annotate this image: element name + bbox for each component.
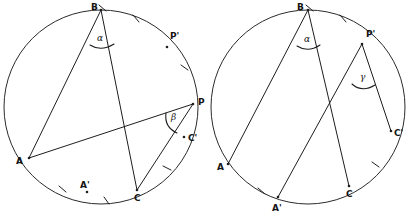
left-circle-diagram: B P' P C' C A' A α β bbox=[4, 2, 205, 204]
left-point-Cprime-dot bbox=[183, 136, 186, 139]
geometry-figure-svg: B P' P C' C A' A α β bbox=[0, 0, 413, 219]
right-label-A: A bbox=[217, 162, 224, 172]
right-point-C-dot bbox=[348, 185, 351, 188]
diagram-canvas: B P' P C' C A' A α β bbox=[0, 0, 413, 219]
left-label-Pprime: P' bbox=[170, 31, 179, 41]
right-point-Pprime-dot bbox=[361, 43, 364, 46]
right-label-C: C bbox=[346, 189, 353, 199]
left-label-angle-alpha: α bbox=[97, 33, 103, 43]
right-point-Cprime-dot bbox=[390, 130, 393, 133]
right-label-Aprime: A' bbox=[272, 203, 282, 213]
left-point-P-dot bbox=[192, 103, 195, 106]
left-label-Aprime: A' bbox=[80, 180, 90, 190]
left-label-B: B bbox=[91, 2, 98, 12]
right-label-angle-alpha: α bbox=[304, 34, 310, 44]
right-tick-arc-C-Cprime bbox=[372, 162, 379, 167]
left-tick-arc-Aprime-C bbox=[104, 197, 109, 204]
left-angle-arc-alpha bbox=[90, 44, 114, 48]
left-point-Pprime-dot bbox=[166, 46, 169, 49]
left-label-Cprime: C' bbox=[188, 133, 197, 143]
left-chord-C-P bbox=[137, 104, 193, 190]
right-angle-arc-gamma bbox=[352, 84, 375, 89]
right-label-B: B bbox=[297, 2, 304, 12]
right-label-Cprime: C' bbox=[394, 128, 403, 138]
right-chord-Pprime-Aprime bbox=[278, 44, 362, 197]
left-label-P: P bbox=[198, 97, 205, 107]
left-label-angle-beta: β bbox=[170, 112, 176, 122]
left-label-C: C bbox=[134, 193, 141, 203]
right-chord-B-A bbox=[228, 10, 308, 164]
left-point-B-dot bbox=[100, 9, 103, 12]
right-point-Aprime-dot bbox=[277, 196, 280, 199]
right-point-B-dot bbox=[307, 9, 310, 12]
right-circle-diagram: B P' C' C A' A α γ bbox=[211, 2, 405, 213]
right-label-Pprime: P' bbox=[366, 29, 375, 39]
left-label-A: A bbox=[16, 156, 23, 166]
left-point-A-dot bbox=[28, 157, 31, 160]
left-point-Aprime-dot bbox=[86, 191, 89, 194]
left-tick-arc-Pprime-P bbox=[181, 65, 188, 70]
right-chord-Pprime-Cprime bbox=[362, 44, 391, 131]
right-point-A-dot bbox=[227, 163, 230, 166]
left-chord-A-P bbox=[29, 104, 193, 158]
left-tick-arc-A-Aprime bbox=[59, 186, 66, 192]
right-chord-B-C bbox=[308, 10, 349, 186]
left-tick-arc-C-Cprime bbox=[163, 166, 171, 170]
left-chord-B-C bbox=[101, 10, 137, 190]
right-label-angle-gamma: γ bbox=[360, 72, 366, 82]
left-point-C-dot bbox=[136, 189, 139, 192]
